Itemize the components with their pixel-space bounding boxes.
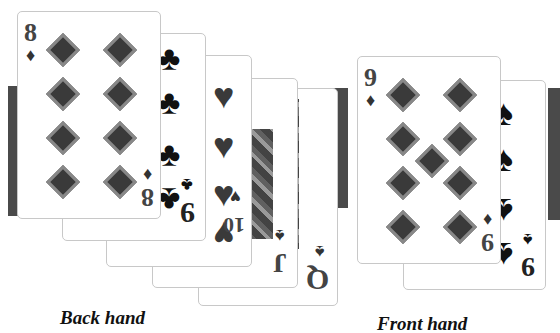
diamond-pip [46,121,80,155]
diamond-pip [443,166,477,200]
rank-label: 8 [141,184,154,210]
rank-label: 10 [223,214,245,236]
diamond-pip [103,77,137,111]
suit-icon: ♦ [26,46,35,64]
card-eight-diamonds[interactable]: 8 ♦ 8 ♦ [17,11,161,219]
diamond-pip [386,166,420,200]
diamond-pip [46,165,80,199]
rank-label: 9 [481,229,494,255]
diamond-pip [46,77,80,111]
suit-icon: ♥ [213,128,234,164]
suit-icon: ♦ [366,91,375,109]
diamond-pip [103,165,137,199]
diamond-pip [386,210,420,244]
suit-icon: ♣ [158,138,180,172]
diamond-pip [386,122,420,156]
rank-label: 9 [180,198,195,228]
diamond-pip [46,33,80,67]
diamond-pip [443,122,477,156]
suit-icon: ♣ [158,86,180,120]
diamond-pip [103,33,137,67]
card-nine-diamonds[interactable]: 9 ♦ 9 ♦ [357,56,501,264]
suit-icon: ♠ [275,227,285,245]
diamond-pip [386,78,420,112]
suit-icon: ♦ [143,166,152,184]
suit-icon: ♥ [230,188,241,206]
rank-label: Q [306,265,329,295]
suit-icon: ♣ [158,42,180,76]
rank-label: 9 [364,65,377,91]
rank-label: 8 [24,20,37,46]
rank-label: J [273,249,287,277]
suit-icon: ♦ [483,211,492,229]
diamond-pip [103,121,137,155]
suit-icon: ♠ [523,231,533,249]
diamond-pip [415,144,449,178]
divider-bar-right [548,88,560,220]
diamond-pip [443,78,477,112]
suit-icon: ♠ [315,243,325,261]
suit-icon: ♣ [158,182,180,216]
front-hand-caption: Front hand [377,313,467,333]
back-hand-caption: Back hand [60,307,145,329]
suit-icon: ♥ [213,78,234,114]
rank-label: 9 [521,253,535,281]
diamond-pip [443,210,477,244]
suit-icon: ♣ [181,176,193,194]
